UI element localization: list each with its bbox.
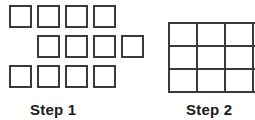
square <box>121 35 144 58</box>
step2-panel: Step 2 <box>160 0 255 120</box>
square <box>9 65 32 88</box>
square <box>93 5 116 28</box>
square <box>93 35 116 58</box>
grid-cell <box>170 70 198 93</box>
grid-cell <box>170 47 198 70</box>
grid-cell <box>226 47 254 70</box>
grid-cell <box>226 70 254 93</box>
square <box>65 65 88 88</box>
step1-top-row <box>9 5 116 28</box>
square <box>37 5 60 28</box>
square <box>37 35 60 58</box>
grid-cell <box>170 24 198 47</box>
square <box>9 5 32 28</box>
square <box>37 65 60 88</box>
grid-cell <box>226 24 254 47</box>
step1-middle-row <box>37 35 144 58</box>
step1-panel: Step 1 <box>0 0 135 120</box>
square <box>65 35 88 58</box>
step1-label: Step 1 <box>30 101 76 118</box>
grid-cell <box>198 24 226 47</box>
grid-cell <box>198 47 226 70</box>
square <box>93 65 116 88</box>
figure-canvas: Step 1 Step 2 <box>0 0 255 120</box>
grid-cell <box>254 24 255 47</box>
step2-grid <box>168 22 255 93</box>
step1-bottom-row <box>9 65 116 88</box>
grid-cell <box>198 70 226 93</box>
step2-label: Step 2 <box>186 101 232 118</box>
grid-cell <box>254 47 255 70</box>
grid-cell <box>254 70 255 93</box>
square <box>65 5 88 28</box>
